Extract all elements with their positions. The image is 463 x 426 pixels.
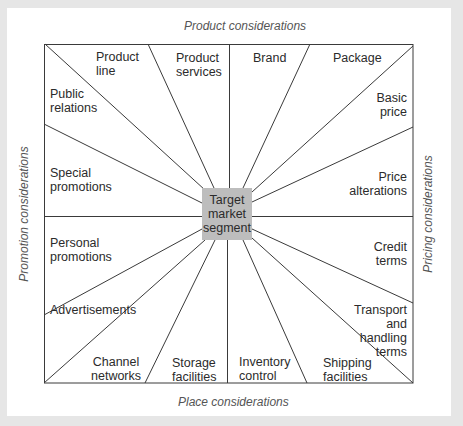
target-market-segment-box: Target market segment — [202, 188, 252, 240]
segment-personal-promotions: Personal promotions — [50, 236, 112, 264]
segment-transport-handling-terms: Transport and handling terms — [354, 303, 407, 359]
segment-package: Package — [333, 51, 382, 65]
segment-brand: Brand — [253, 51, 286, 65]
axis-label-place: Place considerations — [178, 395, 289, 409]
center-line: Target — [203, 193, 251, 207]
center-line: market — [203, 207, 251, 221]
spoke — [243, 44, 310, 188]
segment-public-relations: Public relations — [50, 87, 97, 115]
segment-advertisements: Advertisements — [50, 303, 136, 317]
segment-inventory-control: Inventory control — [239, 355, 290, 383]
segment-channel-networks: Channel networks — [91, 355, 141, 383]
segment-price-alterations: Price alterations — [349, 170, 407, 198]
segment-basic-price: Basic price — [376, 91, 407, 119]
axis-label-product: Product considerations — [184, 19, 306, 33]
segment-credit-terms: Credit terms — [374, 240, 407, 268]
segment-product-line: Product line — [96, 50, 139, 78]
segment-shipping-facilities: Shipping facilities — [323, 356, 372, 384]
center-line: segment — [203, 221, 251, 235]
axis-label-pricing: Pricing considerations — [421, 155, 435, 272]
segment-storage-facilities: Storage facilities — [172, 356, 216, 384]
segment-product-services: Product services — [176, 51, 222, 79]
segment-special-promotions: Special promotions — [50, 166, 112, 194]
axis-label-promotion: Promotion considerations — [17, 146, 31, 281]
